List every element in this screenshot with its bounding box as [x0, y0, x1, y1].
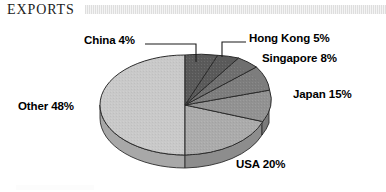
- section-header: EXPORTS: [0, 0, 386, 22]
- pie-label-hong-kong: Hong Kong 5%: [249, 32, 330, 44]
- leader-line-hong-kong: [222, 42, 246, 57]
- pie-texture-overlay: [100, 55, 270, 155]
- page-title: EXPORTS: [7, 2, 75, 18]
- pie-chart: China 4% Hong Kong 5% Singapore 8% Japan…: [0, 22, 386, 192]
- pie-label-singapore: Singapore 8%: [262, 52, 337, 64]
- pie-label-usa: USA 20%: [236, 158, 285, 170]
- pie-label-japan: Japan 15%: [293, 88, 352, 100]
- header-rule-decoration: [85, 5, 386, 14]
- pie-label-other: Other 48%: [18, 100, 74, 112]
- pie-label-china: China 4%: [84, 34, 135, 46]
- footer-band-sliver: [16, 185, 94, 190]
